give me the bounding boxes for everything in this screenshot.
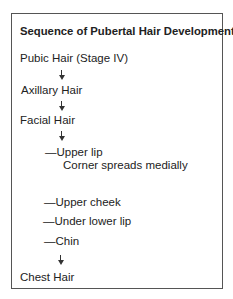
substep-upper-lip: —Upper lip [45, 146, 103, 158]
substep-chin: —Chin [44, 235, 79, 247]
substep-under-lower-lip: —Under lower lip [43, 215, 131, 227]
step-chest-hair: Chest Hair [20, 271, 74, 283]
step-pubic-hair: Pubic Hair (Stage IV) [20, 52, 128, 64]
arrow-down-icon [61, 70, 62, 77]
step-axillary-hair: Axillary Hair [21, 84, 82, 96]
diagram-title: Sequence of Pubertal Hair Development [20, 25, 233, 37]
arrow-down-icon [60, 255, 61, 262]
substep-upper-lip-note: Corner spreads medially [63, 159, 188, 171]
step-facial-hair: Facial Hair [20, 114, 75, 126]
arrow-down-icon [61, 101, 62, 108]
substep-upper-cheek: —Upper cheek [44, 196, 121, 208]
arrow-down-icon [61, 131, 62, 138]
